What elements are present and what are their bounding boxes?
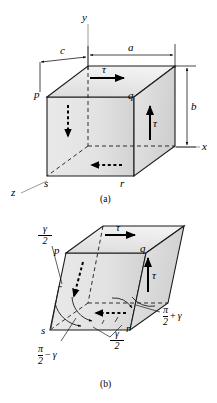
plus-operator: + <box>170 311 176 321</box>
dimension-label-c: c <box>60 45 65 56</box>
shear-stress-label-top-b: τ <box>116 222 120 233</box>
vertex-label-p-a: p <box>34 89 40 100</box>
vertex-label-r-a: r <box>120 178 124 189</box>
vertex-label-s-a: s <box>44 178 48 189</box>
pi-numerator: π <box>163 304 168 315</box>
half-gamma-lower-denominator: 2 <box>110 341 124 351</box>
axis-label-z: z <box>11 187 15 198</box>
minus-operator: − <box>45 350 51 360</box>
half-gamma-lower-numerator: γ <box>110 329 124 339</box>
shear-stress-label-top-a: τ <box>102 64 106 75</box>
vertex-label-s-b: s <box>41 325 45 336</box>
axis-label-y: y <box>82 12 87 23</box>
dimension-label-b: b <box>191 101 197 112</box>
axis-label-x: x <box>202 141 207 152</box>
angle-label-half-gamma-upper: γ 2 <box>38 224 52 246</box>
caption-b: (b) <box>100 380 111 390</box>
pi-over-2-fraction: π 2 <box>38 344 43 366</box>
angle-label-half-gamma-lower: γ 2 <box>110 329 124 351</box>
angle-label-pi-over-2-minus-gamma: π 2 − γ <box>38 344 57 366</box>
pi-numerator: π <box>38 343 43 354</box>
pi-over-2-fraction: π 2 <box>163 305 168 327</box>
vertex-label-q-b: q <box>140 243 146 254</box>
shear-stress-label-right-a: τ <box>153 118 157 129</box>
half-gamma-upper-denominator: 2 <box>38 236 52 246</box>
gamma-term: γ <box>178 311 182 321</box>
dimension-label-a: a <box>128 42 134 53</box>
caption-a: (a) <box>100 195 111 205</box>
shear-stress-label-right-b: τ <box>152 270 156 281</box>
two-denominator: 2 <box>163 316 168 327</box>
panel-a-graphics <box>21 24 200 193</box>
figure-shear-strain: y x z c a b p q r s τ τ (a) p q r s τ τ … <box>0 0 217 403</box>
vertex-label-r-b: r <box>126 323 130 334</box>
vertex-label-p-b: p <box>54 245 60 256</box>
vertex-label-q-a: q <box>128 90 134 101</box>
two-denominator: 2 <box>38 355 43 366</box>
angle-label-pi-over-2-plus-gamma: π 2 + γ <box>163 305 182 327</box>
gamma-term: γ <box>53 350 57 360</box>
half-gamma-upper-numerator: γ <box>38 224 52 234</box>
